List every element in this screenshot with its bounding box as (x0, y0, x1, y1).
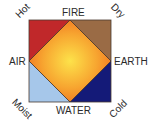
element-air-label: AIR (9, 57, 26, 67)
element-fire-label: FIRE (62, 8, 85, 18)
element-earth-label: EARTH (114, 57, 148, 67)
element-water-label: WATER (56, 106, 91, 116)
four-elements-diagram: FIRE WATER AIR EARTH Hot Dry Moist Cold (0, 0, 153, 122)
